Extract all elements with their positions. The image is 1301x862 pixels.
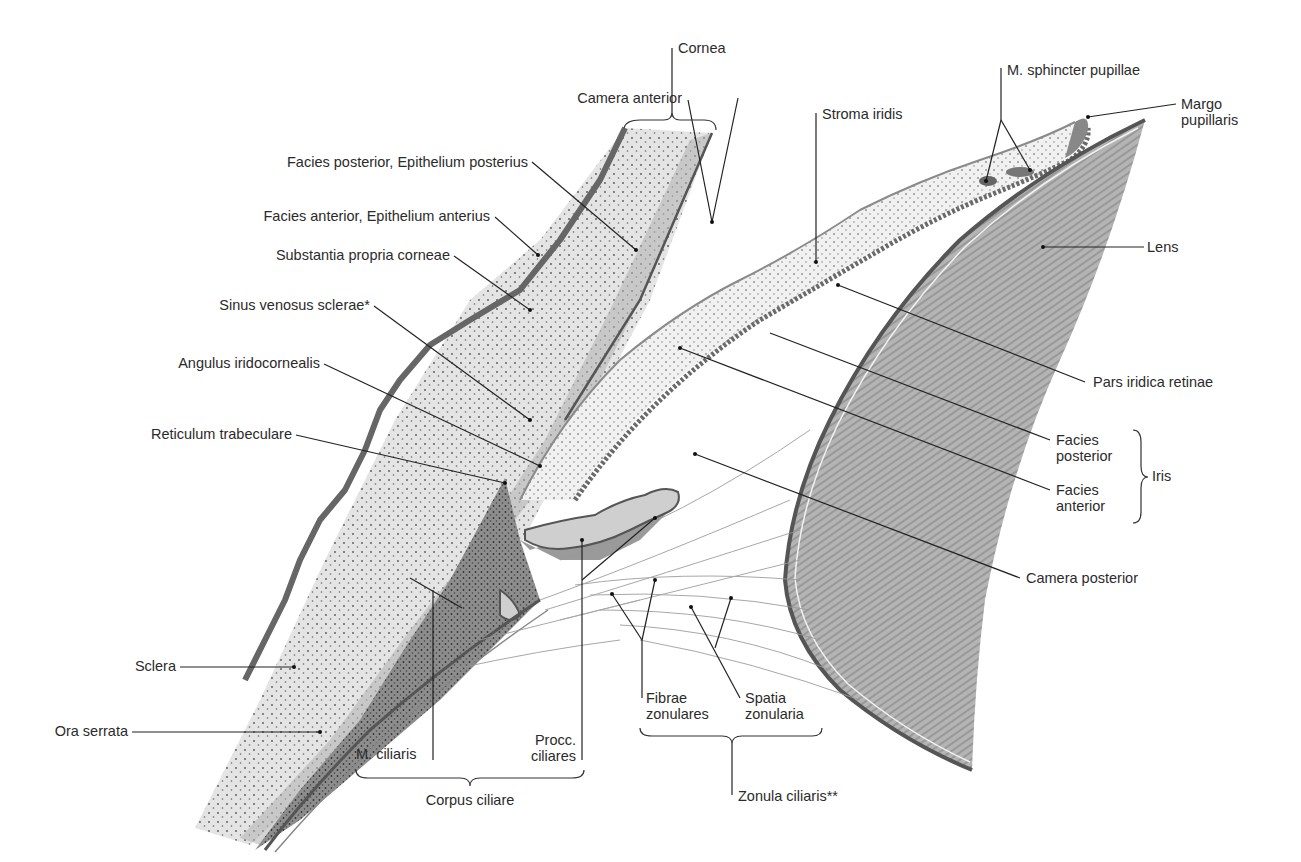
label-spatia-zonularia-line1: Spatia <box>745 690 786 707</box>
label-sclera: Sclera <box>80 658 176 675</box>
label-fibrae-zonulares-line2: zonulares <box>646 706 709 723</box>
label-substantia-propria-corneae: Substantia propria corneae <box>200 247 450 264</box>
label-stroma-iridis: Stroma iridis <box>822 106 903 123</box>
label-procc-ciliares-line1: Procc. <box>480 732 576 749</box>
label-cornea: Cornea <box>678 40 726 57</box>
label-facies-anterior-epithelium-anterius: Facies anterior, Epithelium anterius <box>180 208 490 225</box>
label-lens: Lens <box>1147 239 1178 256</box>
label-m-ciliaris: M. ciliaris <box>356 746 416 763</box>
label-angulus-iridocornealis: Angulus iridocornealis <box>100 355 320 372</box>
label-spatia-zonularia-line2: zonularia <box>745 706 804 723</box>
label-facies-posterior-epithelium-posterius: Facies posterior, Epithelium posterius <box>180 154 528 171</box>
label-facies-anterior-line2: anterior <box>1056 498 1105 515</box>
label-margo-pupillaris-line1: Margo <box>1181 96 1222 113</box>
label-procc-ciliares-line2: ciliares <box>480 748 576 765</box>
label-ora-serrata: Ora serrata <box>10 723 128 740</box>
label-margo-pupillaris-line2: pupillaris <box>1181 112 1238 129</box>
label-facies-posterior-line1: Facies <box>1056 432 1099 449</box>
label-camera-anterior: Camera anterior <box>448 90 682 107</box>
label-facies-anterior-line1: Facies <box>1056 482 1099 499</box>
label-facies-posterior-line2: posterior <box>1056 448 1112 465</box>
label-reticulum-trabeculare: Reticulum trabeculare <box>80 426 292 443</box>
label-camera-posterior: Camera posterior <box>1026 570 1138 587</box>
label-fibrae-zonulares-line1: Fibrae <box>646 690 687 707</box>
label-corpus-ciliare: Corpus ciliare <box>400 792 540 809</box>
label-pars-iridica-retinae: Pars iridica retinae <box>1093 374 1213 391</box>
label-iris: Iris <box>1152 468 1171 485</box>
label-m-sphincter-pupillae: M. sphincter pupillae <box>1007 62 1140 79</box>
label-zonula-ciliaris: Zonula ciliaris** <box>738 788 838 805</box>
label-sinus-venosus-sclerae: Sinus venosus sclerae* <box>120 297 370 314</box>
